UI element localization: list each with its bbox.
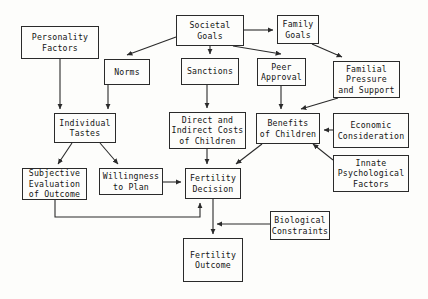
node-innate_psychological[interactable]: Innate Psychological Factors	[333, 155, 409, 192]
node-fertility_decision[interactable]: Fertility Decision	[185, 168, 241, 199]
node-norms[interactable]: Norms	[104, 59, 150, 85]
edge-familial_pressure-to-benefits_of_children	[301, 98, 338, 109]
node-individual_tastes[interactable]: Individual Tastes	[54, 113, 116, 143]
node-subjective_evaluation[interactable]: Subjective Evaluation of Outcome	[22, 168, 87, 200]
node-benefits_of_children[interactable]: Benefits of Children	[256, 113, 320, 144]
edge-subjective_evaluation-to-fertility_decision	[55, 200, 200, 217]
edge-individual_tastes-to-willingness_to_plan	[100, 143, 118, 164]
edge-innate_psychological-to-benefits_of_children	[313, 144, 333, 160]
diagram-canvas: Personality FactorsSocietal GoalsFamily …	[0, 0, 428, 299]
edge-societal_goals-to-peer_approval	[233, 46, 281, 54]
node-willingness_to_plan[interactable]: Willingness to Plan	[99, 168, 163, 195]
node-personality_factors[interactable]: Personality Factors	[21, 26, 99, 59]
node-economic_consideration[interactable]: Economic Consideration	[333, 113, 409, 148]
node-sanctions[interactable]: Sanctions	[181, 58, 239, 85]
edge-individual_tastes-to-subjective_evaluation	[58, 143, 72, 164]
node-biological_constraints[interactable]: Biological Constraints	[270, 211, 330, 240]
node-familial_pressure[interactable]: Familial Pressure and Support	[333, 61, 400, 98]
node-fertility_outcome[interactable]: Fertility Outcome	[183, 238, 243, 282]
node-societal_goals[interactable]: Societal Goals	[176, 15, 244, 46]
edge-family_goals-to-familial_pressure	[312, 44, 342, 57]
node-direct_indirect_costs[interactable]: Direct and Indirect Costs of Children	[169, 112, 246, 149]
node-family_goals[interactable]: Family Goals	[277, 15, 319, 44]
edge-societal_goals-to-norms	[127, 37, 176, 55]
node-peer_approval[interactable]: Peer Approval	[257, 58, 306, 86]
